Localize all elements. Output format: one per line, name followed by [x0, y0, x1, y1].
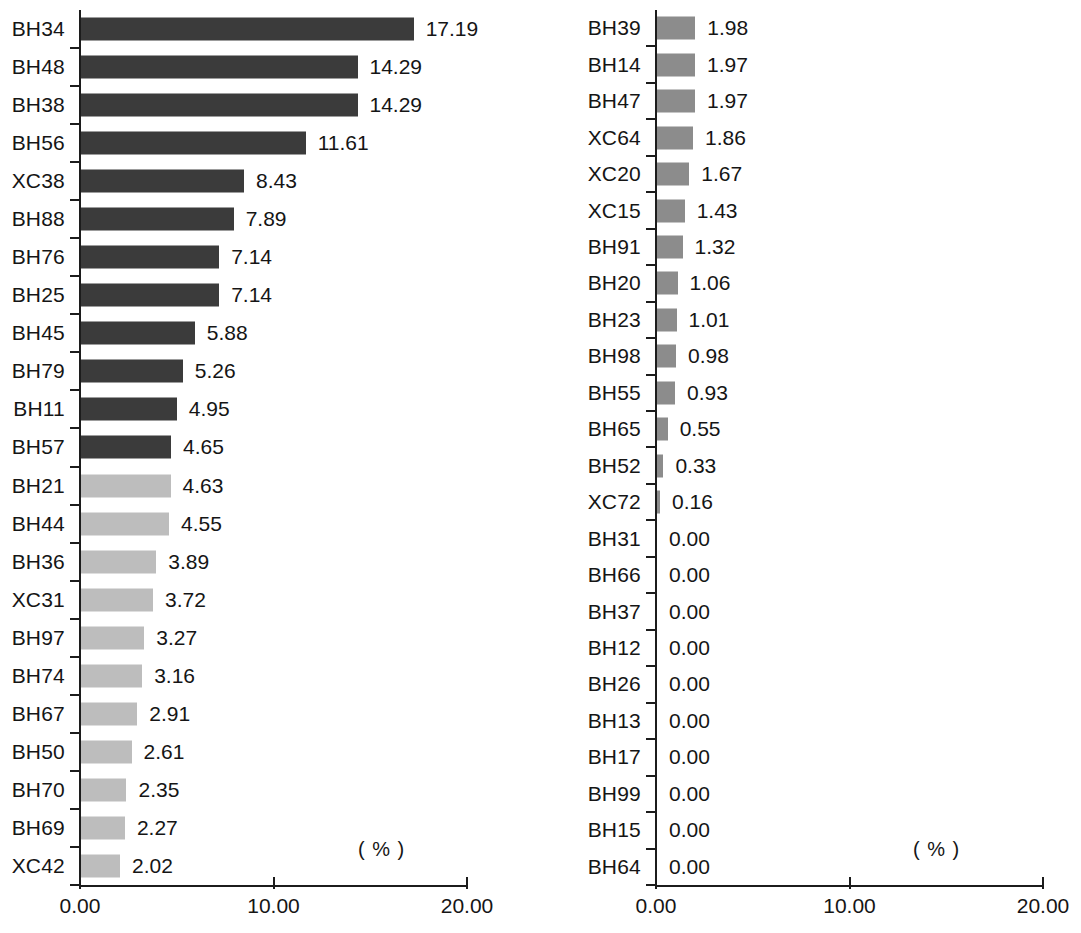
bar-row: BH4814.29 — [79, 48, 479, 86]
category-tick — [646, 884, 655, 886]
category-label: XC72 — [588, 490, 641, 514]
category-label: BH23 — [588, 308, 641, 332]
category-tick — [646, 629, 655, 631]
x-axis-tick — [655, 877, 657, 889]
bar-value-label: 2.91 — [149, 702, 190, 726]
bar-value-label: 1.06 — [690, 271, 731, 295]
bar — [657, 199, 685, 222]
category-label: XC31 — [12, 588, 65, 612]
category-tick — [646, 738, 655, 740]
bar — [81, 398, 177, 421]
bar-value-label: 3.89 — [168, 550, 209, 574]
category-label: BH14 — [588, 53, 641, 77]
category-tick — [646, 483, 655, 485]
bar-value-label: 0.00 — [669, 527, 710, 551]
bar-row: BH887.89 — [79, 200, 479, 238]
bar-value-label: 1.97 — [707, 53, 748, 77]
bar — [657, 272, 678, 295]
category-label: BH37 — [588, 600, 641, 624]
category-tick — [70, 884, 79, 886]
bar-row: BH980.98 — [655, 338, 1055, 374]
bar-value-label: 0.00 — [669, 709, 710, 733]
bar-row: BH574.65 — [79, 428, 479, 466]
category-tick — [70, 199, 79, 201]
bar — [657, 418, 668, 441]
bar — [81, 474, 171, 497]
category-tick — [646, 118, 655, 120]
bar — [81, 550, 156, 573]
bar-row: BH3814.29 — [79, 86, 479, 124]
bar-row: BH455.88 — [79, 314, 479, 352]
bar-row: XC720.16 — [655, 484, 1055, 520]
bar-row: BH550.93 — [655, 375, 1055, 411]
bar — [657, 163, 689, 186]
category-tick — [646, 301, 655, 303]
category-label: BH25 — [12, 283, 65, 307]
category-label: BH69 — [12, 816, 65, 840]
bar — [81, 626, 144, 649]
bar-value-label: 0.00 — [669, 782, 710, 806]
x-axis-tick-label: 0.00 — [60, 894, 101, 918]
category-label: BH20 — [588, 271, 641, 295]
category-label: BH50 — [12, 740, 65, 764]
bar-row: BH363.89 — [79, 543, 479, 581]
bar — [81, 322, 195, 345]
bar-row: BH795.26 — [79, 352, 479, 390]
bar-row: BH471.97 — [655, 83, 1055, 119]
category-tick — [646, 519, 655, 521]
category-label: BH26 — [588, 672, 641, 696]
bar — [657, 53, 695, 76]
category-label: BH47 — [588, 89, 641, 113]
bar-value-label: 0.00 — [669, 563, 710, 587]
category-tick — [70, 694, 79, 696]
bar-row: BH370.00 — [655, 593, 1055, 629]
category-label: BH88 — [12, 207, 65, 231]
category-tick — [646, 446, 655, 448]
bar — [81, 132, 306, 155]
bar-row: BH911.32 — [655, 229, 1055, 265]
bar — [657, 17, 695, 40]
bar-value-label: 0.00 — [669, 672, 710, 696]
chart-panel-left: BH3417.19BH4814.29BH3814.29BH5611.61XC38… — [0, 0, 540, 933]
bar — [657, 345, 676, 368]
category-tick — [646, 592, 655, 594]
category-label: BH11 — [13, 397, 65, 421]
category-label: BH39 — [588, 16, 641, 40]
bar-value-label: 2.02 — [132, 854, 173, 878]
bar-value-label: 7.89 — [246, 207, 287, 231]
x-axis-tick-label: 20.00 — [441, 894, 494, 918]
bar-value-label: 4.55 — [181, 512, 222, 536]
bar-row: BH692.27 — [79, 809, 479, 847]
bar-value-label: 14.29 — [370, 93, 423, 117]
category-tick — [646, 45, 655, 47]
bar — [81, 702, 137, 725]
bar-row: XC313.72 — [79, 581, 479, 619]
plot-area-left: BH3417.19BH4814.29BH3814.29BH5611.61XC38… — [79, 10, 479, 885]
bar-value-label: 0.16 — [672, 490, 713, 514]
bar-row: BH640.00 — [655, 849, 1055, 885]
category-label: BH55 — [588, 381, 641, 405]
bar-row: BH3417.19 — [79, 10, 479, 48]
category-tick — [70, 275, 79, 277]
category-tick — [70, 466, 79, 468]
category-tick — [70, 237, 79, 239]
category-tick — [70, 427, 79, 429]
bar-value-label: 0.00 — [669, 636, 710, 660]
category-tick — [70, 846, 79, 848]
bar-value-label: 0.98 — [688, 344, 729, 368]
category-label: BH45 — [12, 321, 65, 345]
bar — [81, 816, 125, 839]
bar — [81, 740, 132, 763]
category-tick — [646, 811, 655, 813]
category-label: BH48 — [12, 55, 65, 79]
category-tick — [70, 770, 79, 772]
bar-value-label: 17.19 — [426, 17, 479, 41]
x-axis-tick-label: 20.00 — [1017, 894, 1070, 918]
bar-row: BH990.00 — [655, 776, 1055, 812]
bar-row: BH702.35 — [79, 771, 479, 809]
bar — [81, 246, 219, 269]
category-label: BH91 — [588, 235, 641, 259]
category-label: BH74 — [12, 664, 65, 688]
bar-value-label: 14.29 — [370, 55, 423, 79]
x-axis-tick — [849, 877, 851, 889]
